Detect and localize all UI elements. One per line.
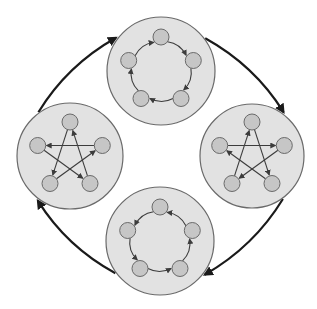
graph-node-5 bbox=[212, 138, 228, 154]
graph-node-4 bbox=[42, 176, 58, 192]
graph-node-5 bbox=[121, 53, 137, 69]
graph-node-4 bbox=[224, 176, 240, 192]
cycle-arrow-right-to-bottom bbox=[205, 199, 283, 275]
graph-node-3 bbox=[82, 176, 98, 192]
graph-node-2 bbox=[184, 223, 200, 239]
graph-node-5 bbox=[120, 223, 136, 239]
graph-node-1 bbox=[152, 199, 168, 215]
cycle-arrow-left-to-top bbox=[38, 38, 116, 113]
graph-node-1 bbox=[153, 29, 169, 45]
graph-node-1 bbox=[62, 114, 78, 130]
graph-cycle-diagram bbox=[0, 0, 317, 309]
graph-node-5 bbox=[30, 138, 46, 154]
graph-node-2 bbox=[185, 53, 201, 69]
graph-node-4 bbox=[133, 91, 149, 107]
panel-left bbox=[17, 103, 123, 209]
panel-top bbox=[107, 17, 215, 125]
cycle-arrow-top-to-right bbox=[205, 38, 283, 112]
graph-node-3 bbox=[172, 261, 188, 277]
panels bbox=[17, 17, 304, 295]
graph-node-2 bbox=[94, 138, 110, 154]
graph-node-4 bbox=[132, 261, 148, 277]
cycle-arrow-bottom-to-left bbox=[38, 201, 116, 274]
panel-bottom bbox=[106, 187, 214, 295]
graph-node-2 bbox=[276, 138, 292, 154]
graph-node-1 bbox=[244, 114, 260, 130]
graph-node-3 bbox=[264, 176, 280, 192]
graph-node-3 bbox=[173, 91, 189, 107]
panel-right bbox=[200, 104, 304, 208]
